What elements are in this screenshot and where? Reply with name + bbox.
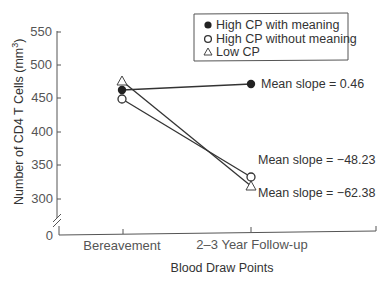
filled-circle-marker <box>247 80 255 88</box>
filled-circle-marker <box>118 86 126 94</box>
x-axis-title: Blood Draw Points <box>171 261 274 275</box>
legend-filled-circle-icon <box>204 21 211 28</box>
series-high-cp-with-meaning <box>122 84 251 90</box>
y-tick-label: 300 <box>31 191 53 206</box>
slope-annotation: Mean slope = 0.46 <box>261 77 364 91</box>
legend: High CP with meaning High CP without mea… <box>194 13 357 61</box>
y-tick-label: 500 <box>30 57 52 72</box>
chart: 550 500 450 400 350 300 0 Number of CD4 … <box>0 0 386 281</box>
y-axis: 550 500 450 400 350 300 0 <box>30 24 61 243</box>
y-tick-label: 350 <box>31 157 53 172</box>
y-axis-title: Number of CD4 T Cells (mm3) <box>10 39 26 205</box>
legend-label: High CP without meaning <box>216 32 357 46</box>
series-low-cp <box>122 81 251 186</box>
legend-label: High CP with meaning <box>216 18 339 32</box>
x-axis: Bereavement 2–3 Year Follow-up <box>59 226 376 253</box>
slope-annotation: Mean slope = −62.38 <box>258 186 375 200</box>
series-high-cp-without-meaning <box>122 99 251 177</box>
slope-annotation: Mean slope = −48.23 <box>258 153 375 167</box>
legend-label: Low CP <box>216 45 260 59</box>
x-tick-label: Bereavement <box>83 238 161 253</box>
low-cp-marker <box>117 76 127 85</box>
y-tick-label: 550 <box>30 24 52 39</box>
open-circle-marker <box>118 95 126 103</box>
y-tick-label: 400 <box>31 124 53 139</box>
open-circle-marker <box>247 173 255 181</box>
y-tick-label: 0 <box>46 228 53 243</box>
legend-open-circle-icon <box>205 36 212 43</box>
x-tick-label: 2–3 Year Follow-up <box>196 237 307 252</box>
y-tick-label: 450 <box>31 90 53 105</box>
